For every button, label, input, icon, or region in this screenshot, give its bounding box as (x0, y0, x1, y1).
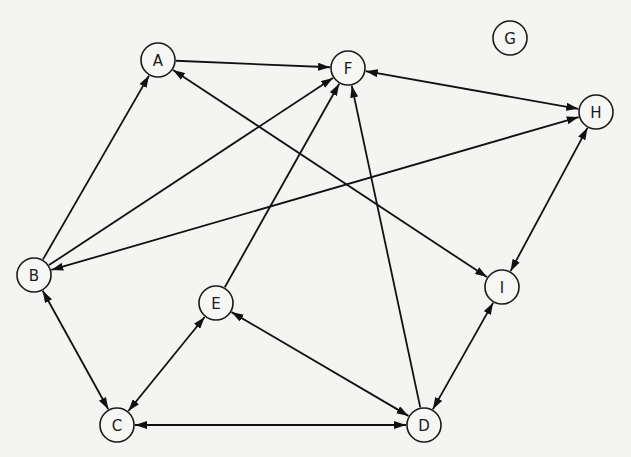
node-label: E (211, 295, 220, 313)
node-f: F (331, 51, 365, 85)
node-b: B (17, 258, 51, 292)
edge-h-i (511, 128, 588, 271)
edges-layer (43, 61, 588, 425)
node-c: C (100, 408, 134, 442)
node-e: E (199, 286, 233, 320)
node-g: G (493, 21, 527, 55)
nodes-layer: AFGHBEICD (17, 21, 613, 442)
edge-d-f (352, 86, 421, 408)
node-label: A (153, 52, 164, 70)
edge-b-c (43, 291, 109, 410)
node-a: A (141, 43, 175, 77)
edge-c-e (128, 317, 204, 411)
edge-a-f (176, 61, 330, 67)
node-label: I (500, 279, 504, 297)
edge-b-a (43, 76, 149, 260)
node-label: D (418, 417, 430, 435)
node-label: C (112, 417, 122, 435)
node-label: F (344, 60, 353, 78)
node-label: G (504, 30, 516, 48)
edge-i-d (433, 303, 493, 410)
edge-e-d (232, 312, 409, 416)
node-label: H (590, 104, 601, 122)
node-d: D (407, 408, 441, 442)
node-label: B (29, 267, 39, 285)
graph-diagram: AFGHBEICD (0, 0, 631, 457)
edge-b-h (51, 117, 578, 270)
edge-e-f (225, 84, 339, 288)
node-h: H (579, 95, 613, 129)
edge-f-h (366, 71, 579, 109)
node-i: I (485, 270, 519, 304)
